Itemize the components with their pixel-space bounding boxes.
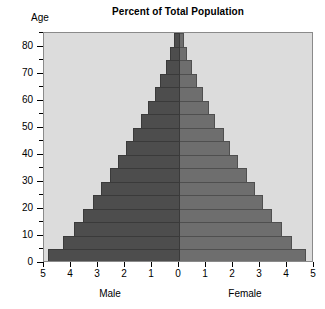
bar-female [179, 222, 282, 236]
bar-female [179, 114, 215, 128]
bar-male [83, 209, 179, 223]
bar-male [170, 47, 179, 61]
x-axis-tick [286, 262, 287, 267]
bar-male [155, 87, 179, 101]
y-axis-tick-label: 50 [1, 121, 33, 132]
bar-male [93, 195, 179, 209]
bar-female [179, 47, 187, 61]
x-axis-tick [232, 262, 233, 267]
y-axis-minor-tick [39, 86, 43, 87]
bar-female [179, 141, 230, 155]
y-axis-tick [37, 73, 43, 74]
y-axis-tick-label: 70 [1, 67, 33, 78]
bar-female [179, 128, 224, 142]
y-axis-tick [37, 46, 43, 47]
bar-female [179, 101, 209, 115]
bar-male [148, 101, 179, 115]
y-axis-minor-tick [39, 221, 43, 222]
bar-female [179, 168, 247, 182]
bar-male [101, 182, 179, 196]
x-axis-tick [43, 262, 44, 267]
bar-male [48, 249, 179, 262]
y-axis-tick-label: 0 [1, 256, 33, 267]
bar-female [179, 209, 272, 223]
bar-female [179, 60, 192, 74]
y-axis-tick-label: 20 [1, 202, 33, 213]
bar-male [126, 141, 179, 155]
bar-female [179, 155, 238, 169]
x-axis-group-label-female: Female [200, 288, 290, 299]
y-axis-tick [37, 235, 43, 236]
x-axis-tick-label: 5 [302, 268, 324, 279]
y-axis-minor-tick [39, 167, 43, 168]
x-axis-tick [313, 262, 314, 267]
bar-male [63, 236, 179, 250]
y-axis-minor-tick [39, 248, 43, 249]
bar-male [141, 114, 179, 128]
x-axis-tick-label: 4 [59, 268, 81, 279]
y-axis-minor-tick [39, 59, 43, 60]
x-axis-tick-label: 1 [140, 268, 162, 279]
x-axis-tick-label: 2 [221, 268, 243, 279]
y-axis-tick [37, 181, 43, 182]
x-axis-tick-label: 4 [275, 268, 297, 279]
y-axis-tick-label: 40 [1, 148, 33, 159]
y-axis-tick-label: 10 [1, 229, 33, 240]
center-axis-line [179, 33, 180, 261]
bar-male [133, 128, 179, 142]
bar-female [179, 87, 203, 101]
bar-female [179, 236, 292, 250]
x-axis-tick-label: 2 [113, 268, 135, 279]
y-axis-tick [37, 208, 43, 209]
x-axis-tick-label: 1 [194, 268, 216, 279]
bar-male [74, 222, 179, 236]
y-axis-tick [37, 154, 43, 155]
x-axis-tick [70, 262, 71, 267]
x-axis-tick [97, 262, 98, 267]
bar-male [160, 74, 179, 88]
x-axis-tick-label: 3 [248, 268, 270, 279]
population-pyramid-figure: Percent of Total Population Age 01020304… [0, 0, 325, 309]
bar-female [179, 195, 263, 209]
y-axis-minor-tick [39, 194, 43, 195]
y-axis-label: Age [31, 12, 49, 23]
bars-layer [44, 33, 312, 261]
plot-area [43, 32, 313, 262]
x-axis-tick [151, 262, 152, 267]
bar-male [118, 155, 179, 169]
y-axis-tick-label: 80 [1, 40, 33, 51]
x-axis-tick [178, 262, 179, 267]
x-axis-tick-label: 0 [167, 268, 189, 279]
bar-male [110, 168, 179, 182]
x-axis-tick-label: 3 [86, 268, 108, 279]
x-axis-tick [124, 262, 125, 267]
bar-male [166, 60, 180, 74]
y-axis-tick [37, 100, 43, 101]
y-axis-tick-label: 30 [1, 175, 33, 186]
x-axis-tick [259, 262, 260, 267]
x-axis-tick-label: 5 [32, 268, 54, 279]
bar-female [179, 249, 306, 262]
y-axis-minor-tick [39, 113, 43, 114]
bar-female [179, 182, 255, 196]
chart-title: Percent of Total Population [43, 6, 313, 17]
x-axis-group-label-male: Male [65, 288, 155, 299]
y-axis-tick [37, 127, 43, 128]
y-axis-minor-tick [39, 32, 43, 33]
x-axis-tick [205, 262, 206, 267]
y-axis-minor-tick [39, 140, 43, 141]
bar-female [179, 74, 197, 88]
y-axis-tick-label: 60 [1, 94, 33, 105]
